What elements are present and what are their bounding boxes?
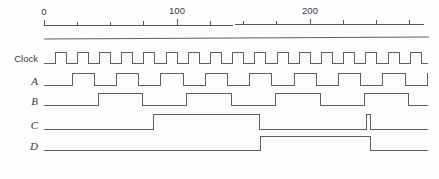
waveform-a bbox=[44, 73, 428, 85]
axis-group: 0100200 bbox=[41, 5, 427, 26]
waveform-b bbox=[44, 93, 428, 105]
waveform-clock bbox=[44, 52, 428, 63]
axis-baseline bbox=[44, 24, 427, 26]
signal-label-c: C bbox=[31, 119, 39, 131]
signal-label-b: B bbox=[31, 95, 38, 107]
axis-tick-label-0: 0 bbox=[41, 6, 46, 17]
axis-tick-label-200: 200 bbox=[302, 5, 318, 16]
signal-label-d: D bbox=[29, 140, 38, 152]
top-rule bbox=[44, 37, 429, 39]
axis-tick-label-100: 100 bbox=[169, 5, 185, 16]
waveform-group bbox=[44, 52, 428, 150]
waveform-d bbox=[44, 136, 428, 150]
waveform-c bbox=[44, 114, 428, 129]
signal-label-group: ClockABCD bbox=[14, 53, 38, 152]
timing-diagram-canvas: 0100200 ClockABCD bbox=[0, 0, 439, 179]
signal-label-clock: Clock bbox=[14, 53, 38, 64]
rule-group bbox=[44, 37, 429, 39]
signal-label-a: A bbox=[30, 75, 38, 87]
timing-diagram-figure: 0100200 ClockABCD bbox=[0, 0, 439, 179]
